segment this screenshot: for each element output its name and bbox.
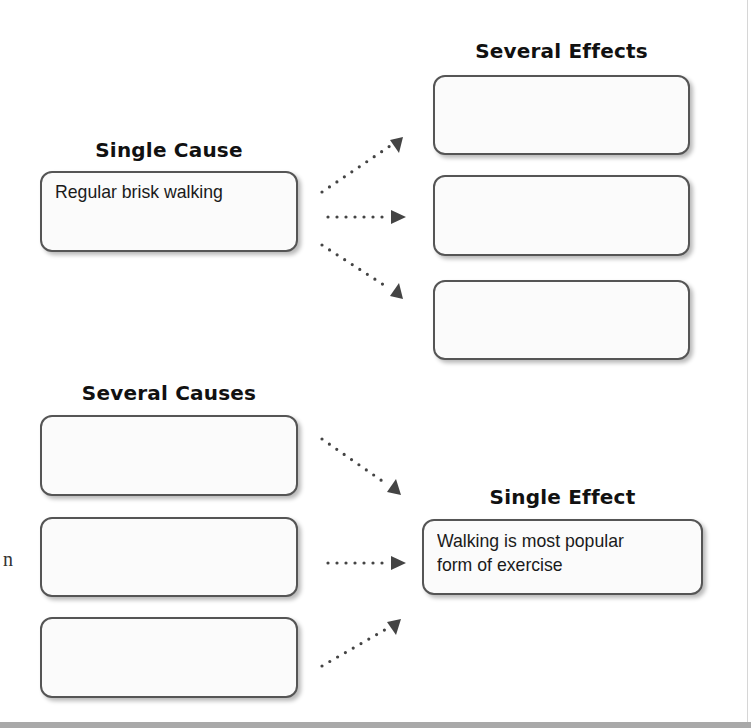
- arrowhead-down-right-icon: [387, 479, 401, 495]
- single-cause-box[interactable]: Regular brisk walking: [40, 171, 298, 252]
- clipped-margin-text: n: [3, 549, 13, 569]
- arrowhead-right-icon: [391, 556, 406, 570]
- arrowhead-up-right-icon: [390, 137, 403, 153]
- arrow-cause-3-to-effect: [322, 628, 388, 666]
- single-effect-box[interactable]: Walking is most popular form of exercise: [422, 519, 703, 595]
- single-cause-heading: Single Cause: [40, 140, 298, 160]
- effect-box-2[interactable]: [433, 175, 690, 256]
- several-effects-heading: Several Effects: [433, 41, 690, 61]
- arrowhead-down-right-icon: [390, 283, 403, 299]
- effect-box-3[interactable]: [433, 280, 690, 360]
- single-effect-text-line-1: Walking is most popular: [437, 529, 675, 553]
- several-causes-heading: Several Causes: [40, 383, 298, 403]
- single-effect-heading: Single Effect: [422, 487, 703, 507]
- single-cause-text: Regular brisk walking: [55, 180, 272, 204]
- cause-box-2[interactable]: [40, 517, 298, 597]
- arrow-cause-to-effect-1: [322, 146, 390, 192]
- single-effect-text: Walking is most popular form of exercise: [437, 529, 675, 577]
- bottom-gray-bar: [0, 722, 751, 728]
- single-effect-text-line-2: form of exercise: [437, 553, 675, 577]
- cause-box-3[interactable]: [40, 617, 298, 698]
- cause-box-1[interactable]: [40, 415, 298, 496]
- right-margin-rule: [747, 0, 748, 722]
- effect-box-1[interactable]: [433, 75, 690, 155]
- arrowhead-right-icon: [391, 210, 406, 224]
- arrow-cause-to-effect-3: [322, 245, 390, 289]
- arrowhead-up-right-icon: [387, 619, 401, 635]
- arrow-cause-1-to-effect: [322, 439, 388, 485]
